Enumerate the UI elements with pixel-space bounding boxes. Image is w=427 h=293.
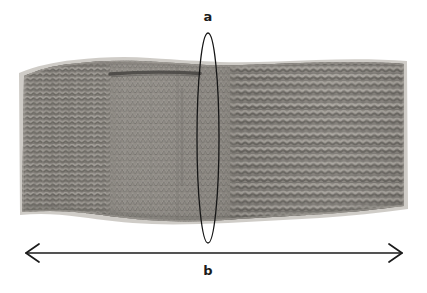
annotation-overlay [0,0,427,293]
ellipse-marker-a [197,33,219,243]
double-arrow-b [26,244,402,262]
dimension-label-a: a [196,10,220,23]
dimension-label-b: b [196,264,220,277]
figure-container: a b [0,0,427,293]
